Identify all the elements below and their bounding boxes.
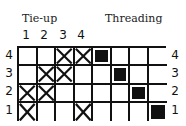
row-label-right: 1 (169, 103, 181, 117)
tieup-cell[interactable] (75, 103, 94, 121)
threading-cell[interactable] (112, 48, 131, 66)
tieup-column-number: 4 (72, 28, 90, 42)
tieup-cell[interactable] (75, 48, 94, 66)
tieup-column-number: 1 (17, 28, 35, 42)
tieup-title: Tie-up (22, 12, 57, 25)
row-label-right: 4 (169, 48, 181, 62)
threading-cell[interactable] (130, 48, 149, 66)
threading-cell[interactable] (112, 85, 131, 103)
tieup-cell[interactable] (19, 66, 38, 84)
threading-cell[interactable] (149, 103, 168, 121)
threading-cell[interactable] (93, 85, 112, 103)
threading-title: Threading (105, 12, 162, 25)
threading-cell[interactable] (149, 85, 168, 103)
threading-cell[interactable] (93, 66, 112, 84)
threading-cell[interactable] (130, 85, 149, 103)
tieup-cell[interactable] (19, 48, 38, 66)
tieup-cell[interactable] (38, 66, 57, 84)
cross-icon (38, 66, 55, 82)
cross-icon (56, 66, 73, 82)
threading-cell[interactable] (93, 48, 112, 66)
threading-cell[interactable] (130, 103, 149, 121)
threading-cell[interactable] (112, 66, 131, 84)
tieup-cell[interactable] (56, 48, 75, 66)
row-label-left: 2 (3, 84, 15, 98)
filled-square-icon (132, 87, 145, 99)
filled-square-icon (114, 68, 127, 80)
row-label-left: 3 (3, 66, 15, 80)
cross-icon (75, 103, 92, 121)
row-label-right: 2 (169, 84, 181, 98)
row-label-left: 4 (3, 48, 15, 62)
filled-square-icon (151, 105, 166, 119)
tieup-cell[interactable] (38, 85, 57, 103)
tieup-cell[interactable] (56, 103, 75, 121)
tieup-column-number: 2 (35, 28, 53, 42)
threading-cell[interactable] (149, 48, 168, 66)
threading-cell[interactable] (112, 103, 131, 121)
threading-cell[interactable] (149, 66, 168, 84)
cross-icon (75, 48, 92, 64)
tieup-cell[interactable] (19, 103, 38, 121)
cross-icon (56, 48, 73, 64)
tieup-cell[interactable] (75, 85, 94, 103)
threading-cell[interactable] (93, 103, 112, 121)
cross-icon (19, 85, 36, 101)
tieup-column-number: 3 (54, 28, 72, 42)
draft-grid (17, 46, 166, 121)
tieup-cell[interactable] (56, 85, 75, 103)
tieup-cell[interactable] (38, 103, 57, 121)
filled-square-icon (95, 50, 108, 62)
tieup-cell[interactable] (19, 85, 38, 103)
cross-icon (38, 85, 55, 101)
tieup-cell[interactable] (75, 66, 94, 84)
cross-icon (19, 103, 36, 121)
tieup-cell[interactable] (38, 48, 57, 66)
threading-cell[interactable] (130, 66, 149, 84)
row-label-left: 1 (3, 103, 15, 117)
tieup-cell[interactable] (56, 66, 75, 84)
row-label-right: 3 (169, 66, 181, 80)
